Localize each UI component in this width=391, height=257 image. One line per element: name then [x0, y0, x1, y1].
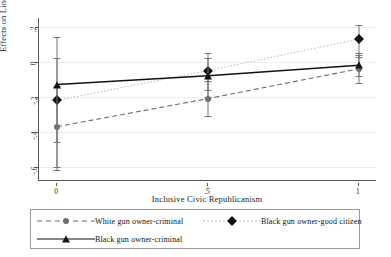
- x-tick-mark: [56, 183, 57, 186]
- data-point-triangle: [355, 62, 363, 69]
- data-point-triangle: [53, 81, 61, 88]
- legend-marker-circle: [63, 218, 69, 224]
- legend-key: [37, 214, 95, 228]
- error-bar-cap: [355, 83, 362, 84]
- error-bar-cap: [355, 25, 362, 26]
- legend-item[interactable]: Black gun owner-good citizen: [203, 212, 362, 230]
- error-bar: [57, 58, 58, 142]
- error-bar-cap: [54, 170, 61, 171]
- error-bar-cap: [54, 58, 61, 59]
- error-bar-cap: [205, 53, 212, 54]
- legend-key: [37, 232, 95, 246]
- legend-label: Black gun owner-criminal: [95, 235, 182, 244]
- error-bar-cap: [355, 76, 362, 77]
- data-point-triangle: [204, 72, 212, 79]
- x-axis-title: Inclusive Civic Republicanism: [38, 194, 376, 204]
- legend-label: White gun owner-criminal: [95, 217, 183, 226]
- error-bar-cap: [54, 142, 61, 143]
- legend-marker-triangle: [62, 236, 70, 243]
- error-bar-cap: [355, 53, 362, 54]
- x-tick-mark: [207, 183, 208, 186]
- x-tick-mark: [358, 183, 359, 186]
- chart-legend: White gun owner-criminalBlack gun owner-…: [30, 209, 360, 249]
- legend-label: Black gun owner-good citizen: [261, 217, 362, 226]
- plot-area: [38, 18, 376, 181]
- legend-item[interactable]: Black gun owner-criminal: [37, 230, 182, 248]
- y-axis-title: Effects on Linear Prediction: [0, 0, 8, 52]
- chart-root: Effects on Linear Prediction .20-.2-.4-.…: [0, 0, 391, 257]
- y-axis-ticks: .20-.2-.4-.6: [14, 18, 34, 181]
- plot-inner: [39, 18, 376, 180]
- error-bar-cap: [54, 37, 61, 38]
- error-bar-cap: [205, 97, 212, 98]
- legend-item[interactable]: White gun owner-criminal: [37, 212, 183, 230]
- error-bar-cap: [205, 116, 212, 117]
- legend-marker-diamond: [227, 216, 237, 226]
- legend-key: [203, 214, 261, 228]
- error-bar-cap: [205, 58, 212, 59]
